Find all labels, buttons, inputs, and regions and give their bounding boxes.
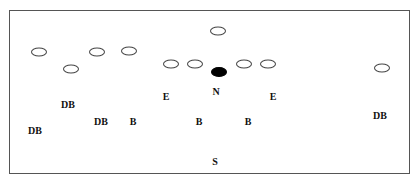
defense-label-db: DB [61, 99, 75, 110]
defense-label-db: DB [28, 125, 42, 136]
offense-player-marker [210, 27, 226, 36]
defense-label-b: B [130, 116, 137, 127]
defense-label-db: DB [94, 116, 108, 127]
offense-player-marker [31, 48, 47, 57]
offense-player-marker [63, 65, 79, 74]
offense-player-marker [236, 60, 252, 69]
defense-label-n: N [212, 86, 219, 97]
defense-label-b: B [196, 116, 203, 127]
diagram-frame [9, 10, 410, 174]
offense-player-marker [163, 60, 179, 69]
offense-player-marker [260, 60, 276, 69]
defense-label-e: E [270, 91, 277, 102]
defense-label-e: E [163, 91, 170, 102]
offense-player-marker [187, 60, 203, 69]
defense-label-b: B [245, 116, 252, 127]
ball-marker [211, 67, 227, 77]
defense-label-s: S [212, 156, 218, 167]
offense-player-marker [374, 64, 390, 73]
offense-player-marker [121, 47, 137, 56]
defense-label-db: DB [373, 110, 387, 121]
caption-cutoff [140, 181, 420, 186]
offense-player-marker [89, 48, 105, 57]
